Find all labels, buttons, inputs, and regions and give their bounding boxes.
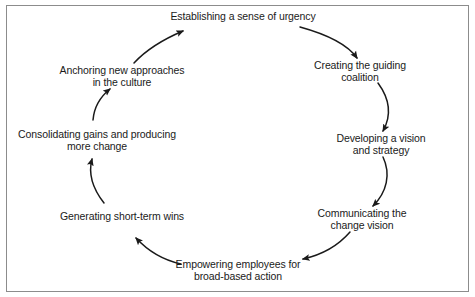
arc-coalition-to-vision [378, 83, 388, 131]
step-5-empowering-employees: Empowering employees for broad-based act… [176, 259, 301, 282]
arc-vision-to-communicating [373, 157, 387, 206]
arc-wins-to-consolidating [91, 159, 104, 203]
step-6-generating-short-term-wins: Generating short-term wins [60, 211, 184, 223]
step-4-communicating-change-vision: Communicating the change vision [306, 208, 419, 231]
step-7-consolidating-gains: Consolidating gains and producing more c… [18, 129, 176, 152]
step-2-creating-guiding-coalition: Creating the guiding coalition [303, 60, 418, 83]
step-1-establishing-urgency: Establishing a sense of urgency [170, 11, 315, 23]
arc-anchoring-to-urgency [134, 31, 183, 63]
step-8-anchoring-new-approaches: Anchoring new approaches in the culture [60, 65, 185, 88]
step-3-developing-vision-and-strategy: Developing a vision and strategy [334, 133, 428, 156]
arc-consolidating-to-anchoring [93, 89, 110, 120]
arc-urgency-to-coalition [300, 27, 357, 58]
arc-empowering-to-wins [136, 238, 181, 264]
figure-canvas: Establishing a sense of urgency Creating… [0, 0, 475, 297]
arc-communicating-to-empowering [303, 232, 350, 259]
